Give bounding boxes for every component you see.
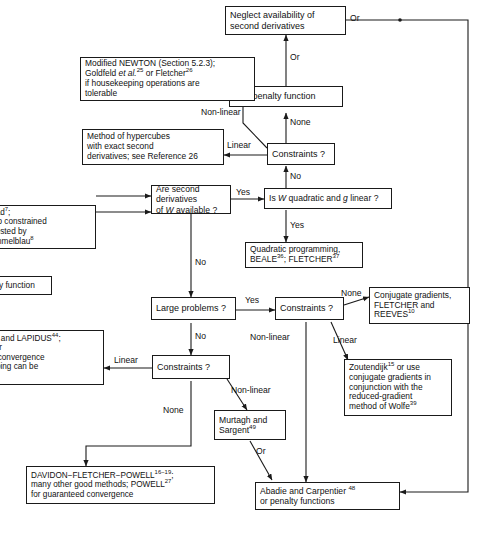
node-w-quadratic-g-linear-label: Is W quadratic and g linear ? <box>269 193 387 203</box>
node-constraints-mid[interactable]: Constraints ? <box>275 297 344 320</box>
edge-label-yes-w-quadratic: Yes <box>290 221 304 230</box>
node-abadie-carpentier[interactable]: Abadie and Carpentier 48or penalty funct… <box>255 482 400 510</box>
node-murtagh-sargent-label: Murtagh andSargent49 <box>219 415 281 435</box>
wire-constraintsmid-none <box>344 297 369 305</box>
edge-label-nonlinear-top: Non-linear <box>201 108 241 117</box>
edge-label-yes-second-derivs: Yes <box>236 188 250 197</box>
node-quadratic-programming-label: Quadratic programming,BEALE36; FLETCHER3… <box>250 245 358 265</box>
edge-label-nonlinear-mid: Non-linear <box>250 333 290 342</box>
node-davidon-fletcher-powell-label: DAVIDON−FLETCHER−POWELL16−19;many other … <box>31 471 210 500</box>
node-modified-newton-label: Modified NEWTON (Section 5.2.3);Goldfeld… <box>85 59 250 98</box>
node-modified-newton[interactable]: Modified NEWTON (Section 5.2.3);Goldfeld… <box>80 57 255 101</box>
node-large-problems[interactable]: Large problems ? <box>151 297 236 320</box>
edge-label-linear-low: Linear <box>114 356 138 365</box>
node-quadratic-programming[interactable]: Quadratic programming,BEALE36; FLETCHER3… <box>245 242 363 268</box>
node-neglect-availability[interactable]: Neglect availability of second derivativ… <box>225 6 346 35</box>
edge-label-none-low: None <box>163 406 184 415</box>
node-large-problems-label: Large problems ? <box>156 303 231 314</box>
node-method-hypercubes-label: Method of hypercubes with exact second d… <box>87 132 219 161</box>
node-goldfarb-lapidus[interactable]: GOLDFARB and LAPIDUS44;Fletcher26 forgua… <box>0 330 104 385</box>
node-abadie-carpentier-label: Abadie and Carpentier 48or penalty funct… <box>260 486 395 506</box>
node-method-hypercubes[interactable]: Method of hypercubes with exact second d… <box>82 129 224 165</box>
node-constraints-top[interactable]: Constraints ? <box>267 143 335 165</box>
edge-label-no-constraints-top: No <box>290 172 301 181</box>
wire-neglect-to-abadie <box>346 20 468 492</box>
edge-label-or-neglect-penalty: Or <box>290 53 300 62</box>
edge-label-linear-top: Linear <box>227 141 251 150</box>
edge-label-no-large: No <box>195 332 206 341</box>
node-w-quadratic-g-linear[interactable]: Is W quadratic and g linear ? <box>264 188 392 209</box>
node-conjugate-gradients[interactable]: Conjugate gradients,FLETCHER andREEVES10 <box>369 287 470 324</box>
node-constraints-low[interactable]: Constraints ? <box>152 355 230 379</box>
node-conjugate-gradients-label: Conjugate gradients,FLETCHER andREEVES10 <box>374 291 465 320</box>
node-constraints-low-label: Constraints ? <box>157 362 225 373</box>
node-goldfarb-lapidus-label: GOLDFARB and LAPIDUS44;Fletcher26 forgua… <box>0 334 99 382</box>
node-nelder-mead[interactable]: Nelder and Mead7;generalization to const… <box>0 205 96 249</box>
node-neglect-availability-label: Neglect availability of second derivativ… <box>230 10 341 31</box>
edge-label-yes-large: Yes <box>245 296 259 305</box>
edge-label-linear-mid: Linear <box>333 336 357 345</box>
node-constraints-top-label: Constraints ? <box>272 149 330 160</box>
edge-label-no-second-derivs: No <box>195 258 206 267</box>
node-murtagh-sargent[interactable]: Murtagh andSargent49 <box>214 410 286 440</box>
node-second-derivatives-available-label: Are second derivativesof W available ? <box>156 184 226 214</box>
node-zoutendijk-label: Zoutendijk15 or useconjugate gradients i… <box>349 363 447 412</box>
node-constraints-mid-label: Constraints ? <box>280 303 339 314</box>
node-zoutendijk[interactable]: Zoutendijk15 or useconjugate gradients i… <box>344 359 452 416</box>
node-davidon-fletcher-powell[interactable]: DAVIDON−FLETCHER−POWELL16−19;many other … <box>26 466 215 504</box>
edge-label-or-murtagh: Or <box>256 447 266 456</box>
edge-label-none-top: None <box>290 118 311 127</box>
edge-label-none-mid: None <box>341 289 362 298</box>
wire-constraintslow-none-to-davidon <box>86 381 191 466</box>
edge-label-or-top-right: Or <box>350 14 360 23</box>
edge-label-nonlinear-low: Non-linear <box>231 386 271 395</box>
node-penalty-function-left[interactable]: with a penalty function <box>0 276 52 295</box>
junction-dot-top <box>398 18 402 22</box>
flowchart-canvas: Neglect availability of second derivativ… <box>0 0 482 537</box>
node-second-derivatives-available[interactable]: Are second derivativesof W available ? <box>151 185 231 214</box>
node-nelder-mead-label: Nelder and Mead7;generalization to const… <box>0 208 91 246</box>
node-penalty-function-left-label: with a penalty function <box>0 281 47 291</box>
